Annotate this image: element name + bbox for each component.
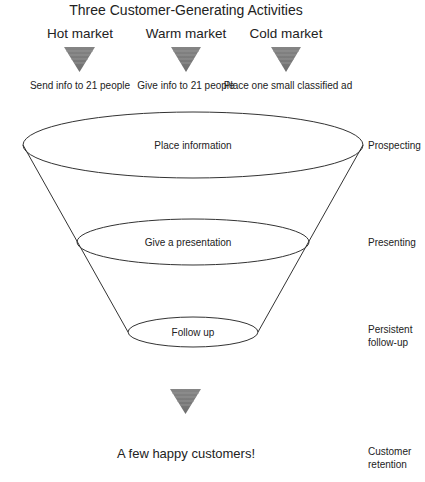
stage-label-retention: retention: [368, 459, 407, 470]
funnel-label-give-presentation: Give a presentation: [145, 237, 232, 248]
diagram-canvas: Three Customer-Generating Activities Hot…: [0, 0, 425, 482]
stage-label-presenting: Presenting: [368, 237, 416, 248]
stage-label-follow-up: follow-up: [368, 337, 408, 348]
stage-label-persistent: Persistent: [368, 324, 413, 335]
funnel-label-follow-up: Follow up: [172, 327, 215, 338]
market-label-hot: Hot market: [47, 26, 113, 41]
funnel-diagram: Three Customer-Generating Activities Hot…: [0, 0, 425, 482]
market-action-cold: Place one small classified ad: [224, 80, 352, 91]
stage-label-prospecting: Prospecting: [368, 140, 421, 151]
triangle-icon-result: [170, 389, 201, 414]
result-label: A few happy customers!: [117, 446, 255, 461]
market-label-warm: Warm market: [146, 26, 227, 41]
market-action-warm: Give info to 21 people: [137, 80, 235, 91]
triangle-icon-hot: [64, 47, 95, 72]
diagram-title: Three Customer-Generating Activities: [69, 2, 302, 18]
stage-label-customer: Customer: [368, 446, 412, 457]
triangle-icon-warm: [171, 47, 201, 72]
funnel-left-side: [23, 145, 128, 332]
market-label-cold: Cold market: [250, 26, 323, 41]
funnel-label-place-information: Place information: [154, 140, 231, 151]
market-action-hot: Send info to 21 people: [30, 80, 131, 91]
funnel-right-side: [258, 145, 363, 332]
triangle-icon-cold: [271, 47, 301, 72]
